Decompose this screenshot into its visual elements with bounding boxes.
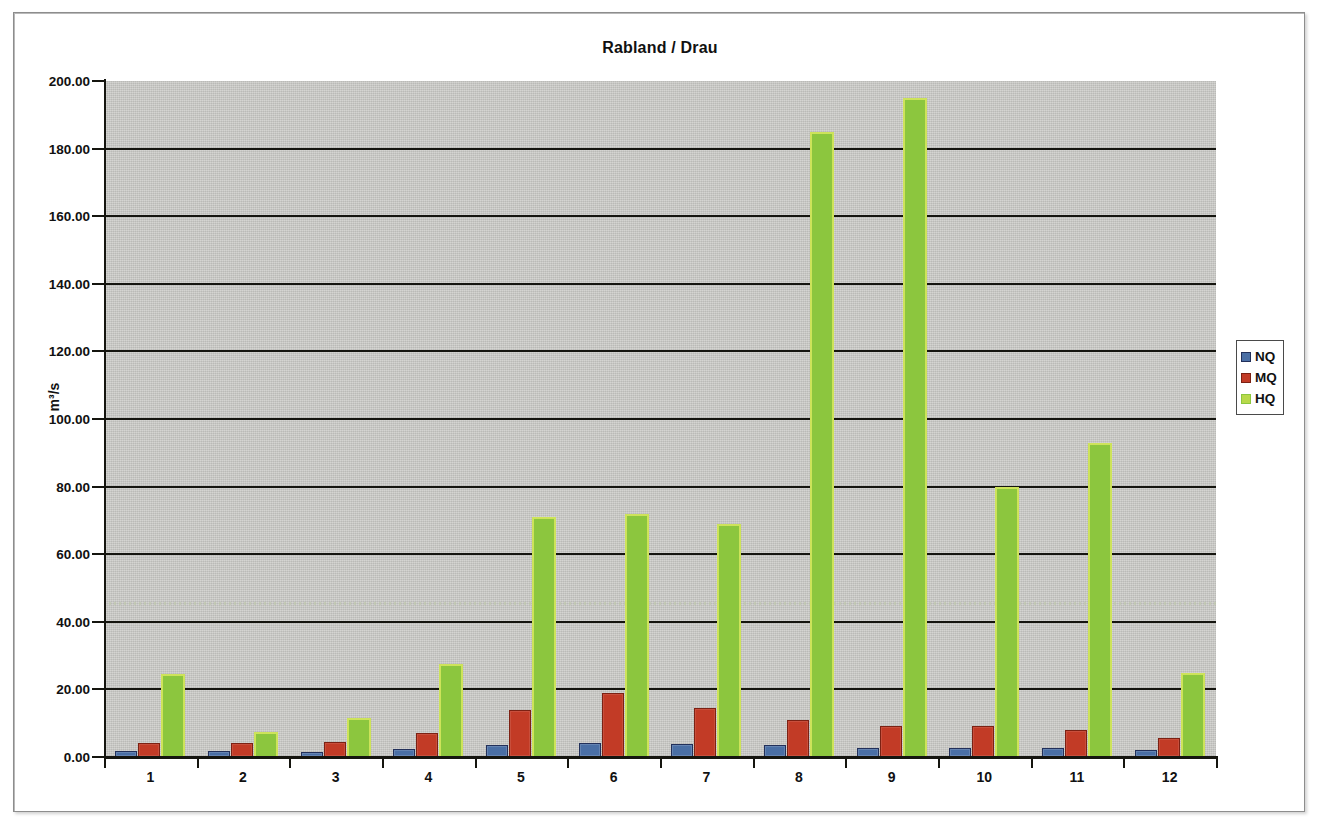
bar-mq-month-12 [1158,738,1180,757]
y-tick-mark [92,688,105,690]
bar-hq-month-4 [439,664,463,757]
x-tick-label-9: 9 [862,769,922,785]
bar-mq-month-11 [1065,730,1087,757]
chart-title: Rabland / Drau [14,39,1306,57]
x-tick-mark [660,757,662,768]
x-tick-mark [104,757,106,768]
legend-label-hq: HQ [1255,392,1275,406]
gridline [104,80,1216,82]
y-tick-label: 60.00 [0,547,90,562]
gridline [104,621,1216,623]
chart-page: Rabland / Drau m³/s NQ MQ HQ 200.00180.0… [0,0,1322,836]
y-tick-label: 120.00 [0,344,90,359]
x-tick-label-11: 11 [1047,769,1107,785]
x-tick-label-6: 6 [584,769,644,785]
y-tick-mark [92,553,105,555]
x-tick-mark [475,757,477,768]
y-tick-label: 0.00 [0,750,90,765]
y-tick-label: 40.00 [0,614,90,629]
x-tick-mark [1216,757,1218,768]
bar-hq-month-3 [347,718,371,757]
y-tick-label: 160.00 [0,209,90,224]
bar-hq-month-10 [995,487,1019,757]
x-tick-mark [382,757,384,768]
gridline [104,283,1216,285]
legend-swatch-hq [1241,394,1251,404]
y-tick-label: 140.00 [0,276,90,291]
plot-area [104,81,1216,757]
reference-line [104,602,1216,605]
y-tick-mark [92,486,105,488]
y-tick-mark [92,418,105,420]
bar-mq-month-5 [509,710,531,757]
bar-hq-month-2 [254,732,278,757]
y-tick-mark [92,215,105,217]
x-tick-label-12: 12 [1140,769,1200,785]
gridline [104,350,1216,352]
bar-mq-month-2 [231,743,253,757]
x-tick-mark [845,757,847,768]
bar-mq-month-9 [880,726,902,757]
gridline [104,148,1216,150]
bar-mq-month-6 [602,693,624,757]
bar-mq-month-1 [138,743,160,757]
y-tick-label: 100.00 [0,412,90,427]
y-tick-label: 80.00 [0,479,90,494]
y-tick-mark [92,80,105,82]
bar-mq-month-10 [972,726,994,757]
legend-label-nq: NQ [1255,350,1275,364]
y-tick-mark [92,283,105,285]
gridline [104,418,1216,420]
x-tick-mark [289,757,291,768]
legend-item-hq: HQ [1241,388,1279,409]
x-tick-label-10: 10 [954,769,1014,785]
bar-nq-month-6 [579,743,601,757]
x-tick-label-4: 4 [398,769,458,785]
gridline [104,486,1216,488]
bar-hq-month-1 [161,674,185,757]
bar-hq-month-9 [903,98,927,757]
x-tick-mark [197,757,199,768]
bar-mq-month-8 [787,720,809,757]
y-tick-mark [92,621,105,623]
x-tick-mark [1123,757,1125,768]
x-tick-label-5: 5 [491,769,551,785]
bar-hq-month-8 [810,132,834,757]
x-tick-label-8: 8 [769,769,829,785]
bar-mq-month-3 [324,742,346,757]
y-tick-mark [92,350,105,352]
legend-swatch-mq [1241,373,1251,383]
bar-hq-month-7 [717,524,741,757]
gridline [104,553,1216,555]
legend-swatch-nq [1241,352,1251,362]
y-tick-label: 180.00 [0,141,90,156]
chart-legend: NQ MQ HQ [1236,340,1284,415]
y-tick-label: 200.00 [0,74,90,89]
x-tick-label-1: 1 [120,769,180,785]
gridline [104,688,1216,690]
x-tick-mark [753,757,755,768]
x-tick-mark [938,757,940,768]
legend-item-mq: MQ [1241,367,1279,388]
bar-mq-month-7 [694,708,716,757]
bar-hq-month-12 [1181,673,1205,758]
bar-hq-month-11 [1088,443,1112,757]
x-tick-mark [1031,757,1033,768]
x-tick-label-7: 7 [676,769,736,785]
x-tick-mark [567,757,569,768]
bar-hq-month-5 [532,517,556,757]
legend-label-mq: MQ [1255,371,1277,385]
x-tick-label-2: 2 [213,769,273,785]
legend-item-nq: NQ [1241,346,1279,367]
y-tick-mark [92,148,105,150]
x-tick-label-3: 3 [306,769,366,785]
y-tick-label: 20.00 [0,682,90,697]
bar-mq-month-4 [416,733,438,757]
bar-hq-month-6 [625,514,649,757]
gridline [104,215,1216,217]
